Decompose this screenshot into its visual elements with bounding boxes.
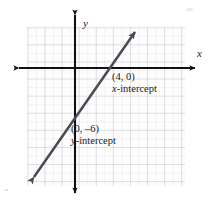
- scan-speck-top: [186, 8, 193, 11]
- x-axis-label: x: [197, 48, 202, 60]
- x-intercept-caption: x-intercept: [112, 83, 157, 94]
- x-intercept-point: (4, 0): [112, 71, 157, 82]
- y-intercept-point: (0, –6): [71, 123, 116, 134]
- x-intercept-callout: (4, 0) x-intercept: [112, 71, 157, 94]
- y-intercept-caption: y-intercept: [71, 135, 116, 146]
- y-intercept-callout: (0, –6) y-intercept: [71, 123, 116, 146]
- scan-speck-left: [5, 189, 8, 191]
- y-axis-label: y: [83, 18, 88, 30]
- x-intercept-caption-text: -intercept: [117, 83, 157, 94]
- graph-vector-layer: [0, 0, 218, 207]
- linear-graph-figure: x y (4, 0) x-intercept (0, –6) y-interce…: [0, 0, 218, 207]
- y-intercept-caption-text: -intercept: [76, 135, 116, 146]
- plotted-line: [34, 32, 135, 177]
